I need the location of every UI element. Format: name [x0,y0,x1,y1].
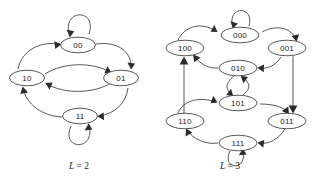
node-000-label: 000 [233,31,247,40]
node-111-label: 111 [232,139,245,148]
de-bruijn-graph-figure: 00 10 01 11 L = 2 [0,0,314,185]
edge-100-to-000 [178,25,218,40]
caption-right-value: 3 [235,161,240,171]
node-101[interactable]: 101 [219,95,257,111]
node-001-label: 001 [280,44,294,53]
node-11-label: 11 [76,112,85,121]
edge-110-to-100 [180,56,189,113]
node-011[interactable]: 011 [268,113,306,129]
edge-101-to-010 [241,76,249,95]
caption-left: L = 2 [68,161,89,171]
caption-left-value: 2 [84,161,89,171]
node-10-label: 10 [22,74,32,83]
caption-right: L = 3 [219,161,240,171]
node-110[interactable]: 110 [166,113,204,129]
edge-010-to-100 [193,55,218,69]
diagram-left: 00 10 01 11 L = 2 [10,15,139,171]
node-001[interactable]: 001 [268,40,306,56]
edge-10-to-01 [45,65,112,74]
edge-000-to-000-self-loop [230,10,249,28]
node-01[interactable]: 01 [104,70,139,86]
edge-00-to-00-self-loop [67,15,91,37]
node-110-label: 110 [178,117,192,126]
edge-001-to-011 [289,56,298,114]
edge-001-to-010 [257,57,281,72]
edge-000-to-001 [262,28,299,42]
edge-111-to-110 [186,129,218,144]
edge-01-to-10 [45,83,111,92]
edge-010-to-101 [226,76,234,96]
node-011-label: 011 [280,117,294,126]
node-000[interactable]: 000 [221,27,259,43]
edge-011-to-111 [257,129,285,148]
node-010-label: 010 [231,64,245,73]
node-10[interactable]: 10 [10,70,45,86]
node-00-label: 00 [73,41,83,50]
node-101-label: 101 [231,99,245,108]
caption-right-eq: = [225,161,235,171]
edge-10-to-00 [18,41,62,69]
node-100-label: 100 [178,44,192,53]
node-11[interactable]: 11 [63,108,98,124]
node-01-label: 01 [116,74,126,83]
node-100[interactable]: 100 [166,40,204,56]
node-010[interactable]: 010 [219,60,257,76]
edge-01-to-11 [97,88,128,120]
figure-canvas: 00 10 01 11 L = 2 [0,0,314,185]
caption-left-eq: = [74,161,84,171]
node-111[interactable]: 111 [219,135,257,151]
edge-11-to-11-self-loop [69,123,93,144]
node-00[interactable]: 00 [61,37,96,53]
edge-11-to-10 [20,86,62,117]
diagram-right: 000 100 001 010 101 110 [166,10,306,171]
edge-00-to-01 [96,44,135,70]
